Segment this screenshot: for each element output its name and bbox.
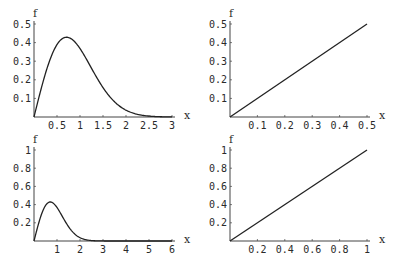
y-tick-label: 0.5 <box>209 19 227 30</box>
y-tick-label: 0.2 <box>209 217 227 228</box>
chart-top-right: 0.10.20.30.40.50.10.20.30.40.5xf <box>209 7 386 131</box>
x-tick-label: 2 <box>123 120 129 131</box>
x-axis-label: x <box>379 109 386 122</box>
x-tick-label: 0.1 <box>248 120 266 131</box>
y-tick-label: 0.1 <box>13 93 31 104</box>
plot-grid: 0.511.522.530.10.20.30.40.5xf0.10.20.30.… <box>0 0 394 263</box>
x-tick-label: 2 <box>77 244 83 255</box>
data-series-line <box>34 202 172 241</box>
x-tick-label: 1.5 <box>94 120 112 131</box>
x-tick-label: 1 <box>77 120 83 131</box>
y-tick-label: 0.6 <box>13 181 31 192</box>
data-series-line <box>34 37 172 117</box>
x-tick-label: 0.2 <box>248 244 266 255</box>
x-tick-label: 0.8 <box>331 244 349 255</box>
x-tick-label: 3 <box>100 244 106 255</box>
y-tick-label: 0.4 <box>13 37 31 48</box>
x-tick-label: 3 <box>169 120 175 131</box>
x-axis-label: x <box>379 233 386 246</box>
y-tick-label: 0.3 <box>209 56 227 67</box>
x-tick-label: 1 <box>364 244 370 255</box>
data-series-line <box>230 24 367 117</box>
x-tick-label: 0.4 <box>331 120 349 131</box>
y-tick-label: 1 <box>25 145 31 156</box>
x-tick-label: 0.3 <box>303 120 321 131</box>
x-tick-label: 4 <box>123 244 129 255</box>
y-tick-label: 0.3 <box>13 56 31 67</box>
chart-bottom-left: 1234560.20.40.60.81xf <box>13 133 191 255</box>
y-tick-label: 0.1 <box>209 93 227 104</box>
x-tick-label: 6 <box>169 244 175 255</box>
x-axis-label: x <box>184 233 191 246</box>
y-axis-label: f <box>33 7 38 20</box>
x-tick-label: 1 <box>54 244 60 255</box>
y-tick-label: 0.6 <box>209 181 227 192</box>
chart-top-left: 0.511.522.530.10.20.30.40.5xf <box>13 7 191 131</box>
y-tick-label: 0.4 <box>13 199 31 210</box>
data-series-line <box>230 150 367 241</box>
x-tick-label: 0.5 <box>48 120 66 131</box>
y-axis-label: f <box>33 133 38 146</box>
x-tick-label: 5 <box>146 244 152 255</box>
x-tick-label: 2.5 <box>140 120 158 131</box>
x-axis-label: x <box>184 109 191 122</box>
y-axis-label: f <box>229 133 234 146</box>
x-tick-label: 0.5 <box>358 120 376 131</box>
y-tick-label: 0.5 <box>13 19 31 30</box>
y-tick-label: 0.4 <box>209 199 227 210</box>
y-tick-label: 0.4 <box>209 37 227 48</box>
x-tick-label: 0.4 <box>276 244 294 255</box>
y-tick-label: 0.2 <box>13 74 31 85</box>
x-tick-label: 0.6 <box>303 244 321 255</box>
y-tick-label: 0.8 <box>13 163 31 174</box>
y-tick-label: 0.8 <box>209 163 227 174</box>
y-axis-label: f <box>229 7 234 20</box>
y-tick-label: 0.2 <box>209 74 227 85</box>
x-tick-label: 0.2 <box>276 120 294 131</box>
y-tick-label: 1 <box>221 145 227 156</box>
y-tick-label: 0.2 <box>13 217 31 228</box>
chart-bottom-right: 0.20.40.60.810.20.40.60.81xf <box>209 133 386 255</box>
